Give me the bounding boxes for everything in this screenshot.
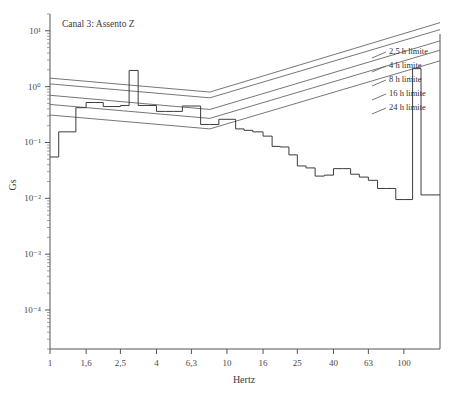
legend-leader-line-2: [372, 66, 386, 72]
x-tick-label-8: 40: [329, 358, 339, 368]
legend-leader-line-3: [372, 80, 386, 86]
chart-container: 10¹10⁰10⁻¹10⁻²10⁻³10⁻⁴ 11,62,546,3101625…: [0, 0, 453, 394]
y-tick-label-1: 10⁰: [28, 82, 41, 92]
legend-leader-line-1: [372, 52, 386, 58]
x-tick-label-10: 100: [397, 358, 411, 368]
y-tick-label-0: 10¹: [29, 26, 41, 36]
legend-label-4: 16 h limite: [389, 88, 426, 98]
axis-frame: [50, 14, 440, 349]
y-tick-label-2: 10⁻¹: [24, 137, 41, 147]
y-tick-label-4: 10⁻³: [24, 249, 41, 259]
x-tick-label-7: 25: [293, 358, 303, 368]
legend-label-2: 4 h limite: [389, 60, 422, 70]
chart-canvas: 10¹10⁰10⁻¹10⁻²10⁻³10⁻⁴ 11,62,546,3101625…: [0, 0, 453, 394]
x-tick-label-5: 10: [222, 358, 232, 368]
y-tick-label-5: 10⁻⁴: [24, 305, 41, 315]
limit-curve-3: [50, 41, 440, 110]
legend-label-3: 8 h limite: [389, 74, 422, 84]
x-axis-title: Hertz: [233, 374, 256, 385]
x-tick-label-6: 16: [259, 358, 269, 368]
y-axis-title: Gs: [7, 179, 18, 190]
signal-step-curve: [50, 69, 440, 200]
x-tick-label-4: 6,3: [186, 358, 198, 368]
limit-curve-group: [50, 23, 440, 129]
legend-leader-line-4: [372, 94, 386, 100]
legend-label-1: 2,5 h limite: [389, 46, 428, 56]
limit-curve-4: [50, 50, 440, 118]
data-curve-group: [50, 69, 440, 200]
plot-title: Canal 3: Assento Z: [62, 19, 135, 29]
y-tick-label-3: 10⁻²: [24, 193, 41, 203]
x-tick-label-0: 1: [48, 358, 53, 368]
x-tick-label-9: 63: [364, 358, 374, 368]
legend-label-5: 24 h limite: [389, 102, 426, 112]
x-axis-ticks: 11,62,546,31016254063100: [48, 349, 411, 368]
x-tick-label-1: 1,6: [80, 358, 92, 368]
x-tick-label-2: 2,5: [115, 358, 127, 368]
legend-leader-line-5: [372, 108, 386, 114]
plot-frame: [50, 14, 440, 349]
y-axis-ticks: 10¹10⁰10⁻¹10⁻²10⁻³10⁻⁴: [24, 14, 50, 349]
limit-curve-5: [50, 61, 440, 129]
x-tick-label-3: 4: [154, 358, 159, 368]
